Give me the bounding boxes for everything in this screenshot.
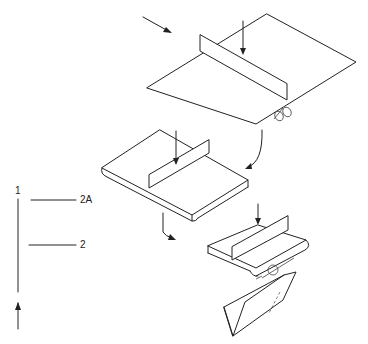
- feed-arrow-icon: [143, 17, 172, 33]
- leader-lines: [15, 199, 76, 329]
- transfer-arrow-icon: [245, 130, 262, 169]
- folding-process-diagram: [0, 0, 368, 344]
- second-folded-sheet: [208, 204, 309, 276]
- large-sheet: [147, 14, 356, 124]
- transfer-arrow-icon: [163, 213, 176, 240]
- first-folded-sheet: [102, 130, 248, 221]
- final-folded-product: [224, 272, 296, 336]
- label-1: 1: [15, 186, 21, 196]
- label-2: 2: [80, 240, 86, 250]
- label-2a: 2A: [80, 195, 92, 205]
